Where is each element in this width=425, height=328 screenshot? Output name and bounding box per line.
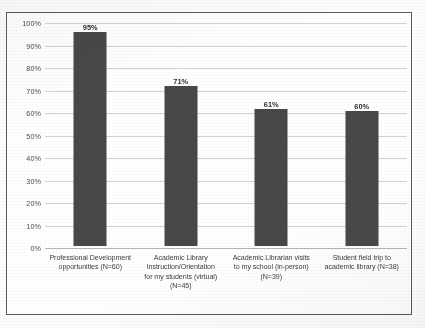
category-label-line: for my students (virtual) xyxy=(136,273,227,282)
category-label-line: Professional Development xyxy=(45,254,136,263)
category-axis-label: Academic LibraryInstruction/Orientationf… xyxy=(136,254,227,292)
category-axis-label: Student field trip toacademic library (N… xyxy=(317,254,408,273)
bar[interactable] xyxy=(74,32,107,246)
category-label-line: to my school (in-person) xyxy=(226,263,317,272)
plot-area: 100%90%80%70%60%50%40%30%20%10%0% 95%71%… xyxy=(7,13,411,314)
chart-frame: 100%90%80%70%60%50%40%30%20%10%0% 95%71%… xyxy=(6,12,412,315)
category-label-line: (N=45) xyxy=(136,282,227,291)
bar-value-label: 71% xyxy=(173,77,188,86)
category-axis-label: Academic Librarian visitsto my school (i… xyxy=(226,254,317,282)
bar-value-label: 60% xyxy=(354,102,369,111)
category-label-line: Academic Library xyxy=(136,254,227,263)
category-axis-label: Professional Developmentopportunities (N… xyxy=(45,254,136,273)
category-label-line: Academic Librarian visits xyxy=(226,254,317,263)
bar[interactable] xyxy=(164,86,197,246)
category-label-line: (N=39) xyxy=(226,273,317,282)
bar-value-label: 95% xyxy=(83,23,98,32)
category-label-line: opportunities (N=60) xyxy=(45,263,136,272)
bar[interactable] xyxy=(255,109,288,246)
category-label-line: Student field trip to xyxy=(317,254,408,263)
category-label-line: Instruction/Orientation xyxy=(136,263,227,272)
category-label-line: academic library (N=38) xyxy=(317,263,408,272)
bar[interactable] xyxy=(345,111,378,246)
bar-value-label: 61% xyxy=(264,100,279,109)
